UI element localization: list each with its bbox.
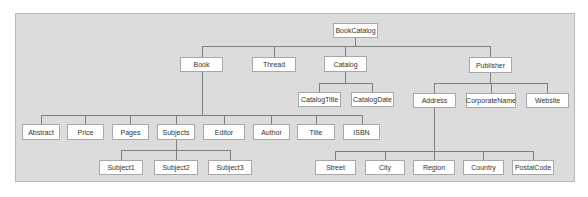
connector [274,46,275,57]
connector [345,72,346,83]
connector [490,46,491,57]
connector [130,115,131,124]
node-catalog: Catalog [324,56,367,72]
node-author: Author [253,124,290,140]
connector [434,108,435,151]
connector [316,115,317,124]
node-title: Title [297,124,335,140]
connector [345,46,346,56]
node-country: Country [463,160,504,175]
connector [355,38,356,46]
connector [202,46,203,57]
node-postalcode: PostalCode [512,160,554,175]
connector [224,115,225,124]
connector [547,83,548,93]
connector [85,115,86,124]
node-bookcatalog: BookCatalog [333,23,378,38]
node-subjects: Subjects [157,124,195,140]
connector [202,72,203,115]
connector [372,83,373,92]
node-pages: Pages [112,124,149,140]
connector [176,140,177,150]
connector [271,115,272,124]
connector [491,83,492,93]
node-abstract: Abstract [22,124,60,140]
node-corporatename: CorporateName [466,93,516,108]
node-isbn: ISBN [343,124,380,140]
node-website: Website [526,93,569,108]
node-thread: Thread [252,57,296,72]
node-editor: Editor [203,124,245,140]
node-subject1: Subject1 [99,160,143,175]
connector [533,151,534,160]
node-catalogdate: CatalogDate [351,92,394,107]
node-price: Price [67,124,104,140]
connector [335,151,336,160]
node-address: Address [413,93,456,108]
connector [41,115,362,116]
connector [362,115,363,124]
connector [490,73,491,83]
node-subject3: Subject3 [208,160,252,175]
connector [176,150,177,160]
node-subject2: Subject2 [154,160,198,175]
node-street: Street [315,160,356,175]
connector [385,151,386,160]
connector [176,115,177,124]
node-region: Region [413,160,455,175]
connector [41,115,42,124]
node-publisher: Publisher [469,57,512,73]
connector [230,150,231,160]
node-city: City [365,160,405,175]
connector [483,151,484,160]
connector [319,83,320,92]
connector [434,83,435,93]
node-book: Book [180,57,223,72]
connector [121,150,122,160]
connector [202,46,491,47]
connector [434,151,435,160]
node-catalogtitle: CatalogTitle [298,92,341,107]
connector [319,83,373,84]
